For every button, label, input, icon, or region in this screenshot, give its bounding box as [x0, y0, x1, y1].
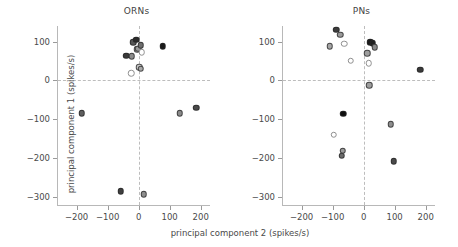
x-tick-label: 200 — [418, 212, 434, 222]
y-tick — [278, 119, 282, 120]
x-tick — [139, 206, 140, 210]
data-point — [160, 43, 167, 50]
data-point — [347, 57, 354, 64]
x-axis-spine — [282, 205, 435, 206]
panel-title-orns: ORNs — [0, 6, 251, 16]
data-point — [365, 60, 372, 67]
data-point — [137, 66, 144, 73]
data-point — [140, 191, 147, 198]
data-point — [193, 104, 200, 111]
x-tick — [364, 206, 365, 210]
x-tick — [170, 206, 171, 210]
data-point — [340, 111, 347, 118]
y-tick — [278, 158, 282, 159]
zero-reference-line-horizontal — [283, 80, 435, 81]
y-tick — [278, 197, 282, 198]
x-tick-label: −100 — [321, 212, 344, 222]
x-axis-label: principal component 2 (spikes/s) — [0, 228, 458, 238]
y-tick-label: 0 — [45, 75, 50, 85]
y-tick-label: 0 — [270, 75, 275, 85]
data-point — [388, 121, 395, 128]
panel-pns: PNs 1000−100−200−300−200−1000100200 — [229, 0, 458, 247]
y-axis-spine — [282, 26, 283, 205]
data-point — [79, 110, 86, 117]
y-tick-label: 100 — [259, 37, 275, 47]
data-point — [337, 31, 344, 38]
y-axis-label: principal component 1 (spikes/s) — [66, 54, 76, 193]
y-tick — [53, 119, 57, 120]
y-tick-label: 100 — [34, 37, 50, 47]
y-tick-label: −200 — [252, 153, 275, 163]
y-tick-label: −200 — [27, 153, 50, 163]
y-tick-label: −100 — [252, 114, 275, 124]
x-axis-spine — [57, 205, 210, 206]
x-tick — [201, 206, 202, 210]
x-tick — [333, 206, 334, 210]
x-tick — [108, 206, 109, 210]
data-point — [118, 188, 125, 195]
panel-title-pns: PNs — [229, 6, 458, 16]
x-tick-label: 0 — [361, 212, 366, 222]
data-point — [139, 49, 146, 56]
y-tick — [278, 42, 282, 43]
figure-container: ORNs 1000−100−200−300−200−1000100200 pri… — [0, 0, 458, 247]
x-tick-label: 0 — [136, 212, 141, 222]
y-tick-label: −300 — [252, 192, 275, 202]
y-tick-label: −100 — [27, 114, 50, 124]
x-tick — [426, 206, 427, 210]
y-tick — [53, 42, 57, 43]
x-tick-label: −200 — [290, 212, 313, 222]
data-point — [364, 50, 371, 57]
x-tick-label: 100 — [162, 212, 178, 222]
data-point — [331, 131, 338, 138]
data-point — [326, 43, 333, 50]
x-tick-label: −100 — [96, 212, 119, 222]
data-point — [176, 110, 183, 117]
y-tick-label: −300 — [27, 192, 50, 202]
x-tick — [302, 206, 303, 210]
panel-orns: ORNs 1000−100−200−300−200−1000100200 pri… — [0, 0, 229, 247]
data-point — [372, 44, 379, 51]
y-tick — [53, 158, 57, 159]
x-tick-label: −200 — [65, 212, 88, 222]
data-point — [390, 158, 397, 165]
x-tick — [395, 206, 396, 210]
y-tick — [53, 197, 57, 198]
y-tick — [278, 80, 282, 81]
data-point — [129, 53, 136, 60]
x-tick — [77, 206, 78, 210]
plot-area-pns: 1000−100−200−300−200−1000100200 — [283, 26, 435, 205]
data-point — [339, 153, 346, 160]
data-point — [366, 82, 373, 89]
zero-reference-line-horizontal — [58, 80, 210, 81]
y-tick — [53, 80, 57, 81]
data-point — [137, 42, 144, 49]
y-axis-spine — [57, 26, 58, 205]
x-tick-label: 200 — [193, 212, 209, 222]
data-point — [128, 70, 135, 77]
plot-area-orns: 1000−100−200−300−200−1000100200 — [58, 26, 210, 205]
data-point — [341, 40, 348, 47]
data-point — [417, 66, 424, 73]
x-tick-label: 100 — [387, 212, 403, 222]
